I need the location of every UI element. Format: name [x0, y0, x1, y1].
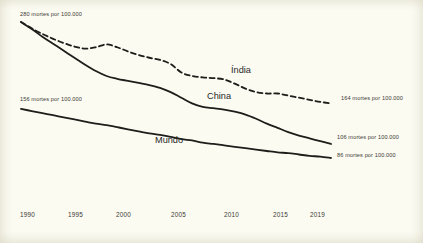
china-end-value-label: 106 mortes por 100.000	[337, 135, 399, 141]
x-axis-tick-2000: 2000	[116, 212, 131, 218]
india-end-value-label: 164 mortes por 100.000	[341, 96, 403, 102]
x-axis-tick-2019: 2019	[310, 212, 325, 218]
x-axis-tick-2010: 2010	[224, 212, 239, 218]
series-label-mundo: Mundo	[155, 136, 183, 145]
x-axis-tick-2005: 2005	[171, 212, 186, 218]
series-line-mundo	[21, 109, 331, 158]
x-axis-tick-1995: 1995	[68, 212, 83, 218]
series-label-china: China	[207, 92, 231, 101]
series-line-china	[21, 22, 331, 144]
series-label-india: Índia	[231, 66, 251, 75]
x-axis-tick-2015: 2015	[273, 212, 288, 218]
india-start-value-label: 280 mortes por 100.000	[20, 12, 82, 18]
line-chart: 280 mortes por 100.000 156 mortes por 10…	[0, 0, 423, 243]
series-line-india	[21, 22, 331, 103]
mundo-end-value-label: 86 mortes por 100.000	[337, 153, 396, 159]
chart-plot-area	[0, 0, 423, 243]
x-axis-tick-1990: 1990	[20, 212, 35, 218]
mundo-start-value-label: 156 mortes por 100.000	[20, 97, 82, 103]
